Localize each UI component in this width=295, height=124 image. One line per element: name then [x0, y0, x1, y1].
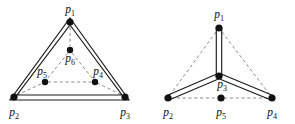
right-panel: p1 p3 p2 p5 p4: [162, 8, 277, 121]
label-p1: p1: [64, 3, 75, 18]
dashed-edge-p6-p4: [72, 53, 93, 79]
vertex-p3[interactable]: [121, 93, 128, 100]
dashed-edge-p1-p4: [222, 32, 270, 95]
vertex-p1[interactable]: [66, 18, 73, 25]
vertex-p2[interactable]: [10, 93, 17, 100]
spoke-p3-p2-rail-b: [169, 79, 219, 100]
label-p4: p4: [266, 106, 277, 121]
label-p2: p2: [162, 106, 173, 121]
vertex-p1[interactable]: [215, 24, 222, 31]
figure-pair: p1 p2 p3 p6 p5 p4: [0, 0, 295, 124]
label-p3: p3: [216, 78, 227, 93]
left-panel: p1 p2 p3 p6 p5 p4: [8, 3, 130, 121]
vertex-p4[interactable]: [92, 79, 98, 85]
label-p2: p2: [8, 106, 19, 121]
diagram-canvas: p1 p2 p3 p6 p5 p4: [0, 0, 295, 124]
vertex-p4[interactable]: [268, 94, 275, 101]
vertex-p5[interactable]: [42, 79, 48, 85]
label-p1: p1: [213, 8, 224, 23]
vertex-p2[interactable]: [164, 94, 171, 101]
spoke-p3-p4-rail-a: [220, 74, 273, 96]
spoke-p3-p2-rail-a: [167, 74, 218, 96]
label-p3: p3: [119, 106, 130, 121]
dashed-edge-p1-p2: [170, 32, 216, 95]
vertex-p5[interactable]: [217, 94, 224, 101]
label-p5: p5: [36, 65, 47, 80]
label-p5: p5: [215, 106, 226, 121]
